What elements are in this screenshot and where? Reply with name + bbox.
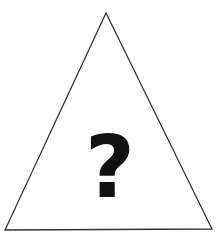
diagram-canvas: ?	[0, 0, 216, 234]
question-mark-icon: ?	[85, 124, 131, 210]
